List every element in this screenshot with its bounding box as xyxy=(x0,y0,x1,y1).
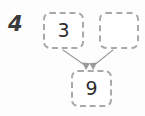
arrow-right-part-to-whole-head xyxy=(89,63,97,70)
number-bond-part-box-right[interactable] xyxy=(99,12,139,49)
arrow-left-part-to-whole-head xyxy=(82,63,90,70)
problem-number-label: 4 xyxy=(8,11,30,37)
number-bond-whole-value: 9 xyxy=(85,79,97,99)
arrow-left-part-to-whole-line xyxy=(63,50,86,66)
number-bond-worksheet-problem: 4 3 9 xyxy=(0,0,145,116)
number-bond-part-box-left[interactable]: 3 xyxy=(43,12,84,49)
number-bond-whole-box[interactable]: 9 xyxy=(71,70,112,107)
number-bond-part-left-value: 3 xyxy=(57,21,69,41)
arrow-right-part-to-whole-line xyxy=(93,50,113,66)
